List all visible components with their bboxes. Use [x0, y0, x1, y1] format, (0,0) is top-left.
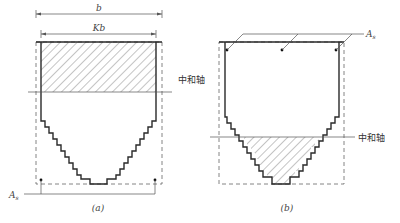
caption-a: (a) [92, 203, 105, 213]
neutral-axis-label: 中和轴 [178, 74, 205, 85]
panel-b: 中和轴 As (b) [210, 29, 385, 213]
panel-a: b Kb 中和轴 As (a) [8, 3, 205, 213]
dimension-kb-label: Kb [92, 23, 106, 33]
caption-b: (b) [281, 203, 294, 213]
steel-area-label: As [8, 190, 19, 201]
section-diagram: b Kb 中和轴 As (a) [0, 0, 400, 223]
dimension-b-label: b [96, 3, 102, 13]
dimension-b: b [36, 3, 162, 18]
neutral-axis-label: 中和轴 [358, 132, 385, 143]
compression-zone-hatch [41, 42, 156, 92]
steel-area-label: As [365, 29, 376, 40]
dimension-kb: Kb [41, 23, 156, 38]
